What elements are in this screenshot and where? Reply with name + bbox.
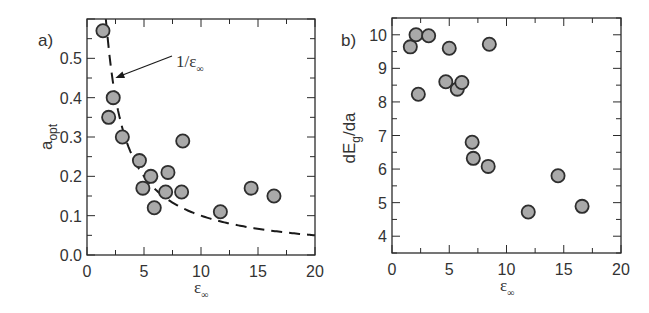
data-point: [422, 29, 435, 42]
panel-a-x-label: ε∞: [194, 278, 208, 300]
panel-a-inverse-curve: [106, 19, 315, 235]
ylabel-sub: g: [349, 136, 363, 143]
panel-b-x-label: ε∞: [500, 276, 514, 298]
x-tick-label: 20: [306, 263, 324, 280]
data-point: [575, 200, 588, 213]
data-point: [443, 42, 456, 55]
data-point: [144, 170, 157, 183]
ylabel-tail: /da: [340, 112, 359, 136]
panel-b-label: b): [341, 31, 356, 50]
data-point: [133, 154, 146, 167]
annotation-main: 1/ε: [176, 52, 196, 71]
ylabel-main: dE: [340, 143, 359, 164]
y-tick-label: 0.4: [60, 90, 82, 107]
x-tick-label: 20: [612, 261, 630, 278]
data-point: [214, 205, 227, 218]
y-tick-label: 0.0: [60, 247, 82, 264]
x-tick-label: 15: [555, 261, 573, 278]
y-tick-label: 10: [369, 27, 387, 44]
inverse-curve-line: [106, 19, 315, 235]
data-point: [107, 91, 120, 104]
y-tick-label: 0.2: [60, 168, 82, 185]
data-point: [412, 88, 425, 101]
arrow-head-icon: [115, 71, 125, 78]
y-tick-label: 5: [378, 195, 387, 212]
panel-b-chart: b) 0510152045678910 dEg/da ε∞: [340, 18, 630, 298]
data-point: [159, 185, 172, 198]
panel-b-data-points: [404, 28, 589, 218]
y-tick-label: 6: [378, 161, 387, 178]
x-tick-label: 15: [249, 263, 267, 280]
data-point: [176, 134, 189, 147]
ylabel-sub: opt: [46, 123, 60, 140]
x-tick-label: 5: [140, 263, 149, 280]
xlabel-main: ε: [500, 276, 507, 295]
data-point: [96, 24, 109, 37]
y-tick-label: 0.3: [60, 129, 82, 146]
data-point: [482, 160, 495, 173]
data-point: [551, 169, 564, 182]
panel-b-plot-frame: [392, 18, 621, 253]
data-point: [116, 130, 129, 143]
annotation-text: 1/ε∞: [176, 52, 204, 74]
data-point: [102, 111, 115, 124]
y-tick-label: 0.5: [60, 50, 82, 67]
panel-a-label: a): [38, 31, 53, 50]
x-tick-label: 5: [445, 261, 454, 278]
data-point: [267, 189, 280, 202]
panel-a-annotation: 1/ε∞: [115, 52, 203, 78]
data-point: [136, 182, 149, 195]
y-tick-label: 9: [378, 60, 387, 77]
xlabel-sub: ∞: [201, 289, 208, 300]
data-point: [404, 40, 417, 53]
figure: a) 051015200.00.10.20.30.40.5 1/ε∞ aopt …: [0, 0, 649, 313]
panel-a-y-label: aopt: [37, 123, 60, 150]
data-point: [522, 205, 535, 218]
data-point: [409, 28, 422, 41]
panel-a-chart: a) 051015200.00.10.20.30.40.5 1/ε∞ aopt …: [37, 19, 324, 300]
data-point: [245, 182, 258, 195]
xlabel-sub: ∞: [507, 287, 514, 298]
panel-b-y-label: dEg/da: [340, 112, 363, 164]
data-point: [175, 185, 188, 198]
y-tick-label: 4: [378, 228, 387, 245]
data-point: [455, 76, 468, 89]
data-point: [467, 152, 480, 165]
data-point: [483, 38, 496, 51]
x-tick-label: 0: [83, 263, 92, 280]
xlabel-main: ε: [194, 278, 201, 297]
x-tick-label: 0: [388, 261, 397, 278]
y-tick-label: 8: [378, 94, 387, 111]
y-tick-label: 7: [378, 128, 387, 145]
data-point: [161, 166, 174, 179]
y-tick-label: 0.1: [60, 208, 82, 225]
panel-b-ticks: 0510152045678910: [369, 18, 630, 278]
data-point: [466, 136, 479, 149]
annotation-sub: ∞: [196, 63, 203, 74]
annotation-arrow: [121, 56, 172, 76]
data-point: [148, 201, 161, 214]
